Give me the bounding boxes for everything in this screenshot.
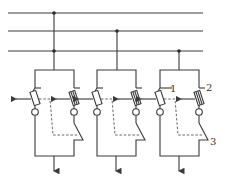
contact-circle-icon	[71, 109, 78, 116]
callout-labels: 1 2 3	[166, 82, 216, 147]
junction-dot	[52, 11, 56, 15]
contact-circle-icon	[32, 109, 39, 116]
label-3: 3	[210, 136, 216, 147]
label-2: 2	[206, 82, 212, 93]
bus-taps	[52, 11, 181, 70]
junction-dot	[115, 29, 119, 33]
fuse-icon	[30, 90, 40, 105]
fuse-hatched-icon	[69, 90, 79, 105]
label-1: 1	[170, 83, 176, 94]
junction-dot	[177, 49, 181, 53]
schematic-diagram: 1 2 3	[0, 0, 226, 185]
bus-bars	[8, 13, 203, 51]
mechanical-link	[39, 99, 78, 135]
switch-unit-1	[16, 70, 83, 171]
junction-dot	[52, 49, 56, 53]
switch-unit-2	[78, 70, 145, 171]
